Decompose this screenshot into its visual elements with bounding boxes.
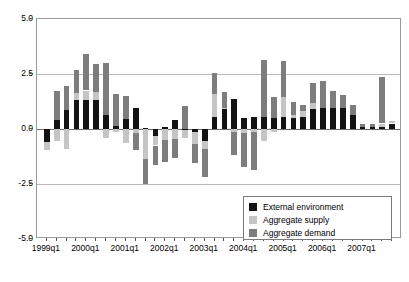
legend-label-aggregate-demand: Aggregate demand <box>263 228 335 238</box>
bar-segment-external-environment <box>64 110 70 129</box>
bar-segment-external-environment <box>74 100 80 129</box>
x-tick-mark <box>125 238 126 241</box>
legend-item-aggregate-demand: Aggregate demand <box>249 226 387 239</box>
bar-segment-aggregate-supply <box>172 129 178 139</box>
x-tick-mark <box>105 238 106 241</box>
x-tick-mark <box>56 238 57 241</box>
bar-segment-aggregate-demand <box>172 139 178 158</box>
x-tick-mark <box>75 238 76 241</box>
bar-segment-aggregate-demand <box>300 105 306 112</box>
bar-segment-external-environment <box>123 119 129 129</box>
bar-segment-aggregate-demand <box>212 73 218 94</box>
legend-swatch-aggregate-demand <box>249 229 257 237</box>
x-tick-mark <box>164 238 165 241</box>
bar-segment-aggregate-supply <box>291 115 297 118</box>
bar-segment-aggregate-demand <box>281 61 287 97</box>
bar-segment-aggregate-demand <box>74 70 80 93</box>
x-tick-label: 2003q1 <box>190 243 218 253</box>
bar-segment-aggregate-demand <box>64 86 70 110</box>
x-tick-mark <box>145 238 146 241</box>
x-tick-label: 2002q1 <box>150 243 178 253</box>
bar-segment-aggregate-demand <box>350 105 356 115</box>
x-tick-mark <box>46 238 47 241</box>
x-tick-mark <box>194 238 195 241</box>
bar-segment-aggregate-demand <box>330 91 336 109</box>
bar-segment-aggregate-demand <box>143 159 149 184</box>
bar-segment-aggregate-supply <box>310 103 316 110</box>
bar-segment-aggregate-supply <box>44 142 50 150</box>
bar-segment-aggregate-supply <box>153 136 159 146</box>
bar-segment-aggregate-demand <box>83 54 89 90</box>
bar-segment-aggregate-demand <box>231 132 237 155</box>
x-tick-label: 1999q1 <box>32 243 60 253</box>
bar-segment-external-environment <box>300 117 306 129</box>
bar-segment-external-environment <box>231 99 237 129</box>
x-tick-mark <box>154 238 155 241</box>
bar-segment-aggregate-demand <box>310 83 316 103</box>
x-tick-label: 2006q1 <box>308 243 336 253</box>
bar-segment-external-environment <box>93 100 99 129</box>
bar-segment-aggregate-supply <box>379 124 385 127</box>
bar-segment-external-environment <box>360 127 366 129</box>
bar-segment-external-environment <box>310 109 316 129</box>
bar-segment-aggregate-supply <box>261 129 267 141</box>
bar-segment-aggregate-supply <box>182 130 188 138</box>
bar-segment-aggregate-demand <box>251 132 257 169</box>
bar-segment-aggregate-demand <box>291 102 297 115</box>
bar-segment-aggregate-demand <box>153 146 159 166</box>
bar-segment-aggregate-demand <box>202 149 208 178</box>
y-tick-mark <box>29 238 33 239</box>
bar-segment-external-environment <box>281 117 287 129</box>
bar-segment-aggregate-supply <box>83 91 89 101</box>
legend-item-aggregate-supply: Aggregate supply <box>249 213 387 226</box>
bar-segment-aggregate-supply <box>54 129 60 141</box>
bar-segment-aggregate-supply <box>281 97 287 117</box>
x-tick-label: 2004q1 <box>229 243 257 253</box>
x-tick-mark <box>223 238 224 241</box>
bar-segment-aggregate-demand <box>271 97 277 118</box>
bar-segment-external-environment <box>133 108 139 129</box>
bar-segment-external-environment <box>330 108 336 129</box>
x-tick-mark <box>115 238 116 241</box>
x-tick-mark <box>214 238 215 241</box>
bar-segment-aggregate-supply <box>300 111 306 117</box>
bar-segment-external-environment <box>241 118 247 129</box>
bar-segment-aggregate-demand <box>123 96 129 119</box>
bar-segment-aggregate-supply <box>143 129 149 159</box>
bar-segment-external-environment <box>340 108 346 129</box>
bar-segment-aggregate-supply <box>93 92 99 101</box>
y-tick-mark <box>29 128 33 129</box>
legend-swatch-aggregate-supply <box>249 216 257 224</box>
bar-segment-aggregate-demand <box>340 95 346 108</box>
x-tick-mark <box>233 238 234 241</box>
bar-segment-aggregate-demand <box>113 94 119 126</box>
x-tick-mark <box>174 238 175 241</box>
bar-segment-aggregate-supply <box>123 129 129 143</box>
bar-segment-external-environment <box>261 117 267 129</box>
bar-segment-external-environment <box>83 100 89 129</box>
bar-segment-aggregate-supply <box>192 132 198 144</box>
bar-segment-external-environment <box>389 124 395 130</box>
x-tick-mark <box>66 238 67 241</box>
bar-segment-external-environment <box>54 120 60 129</box>
bar-segment-external-environment <box>320 108 326 129</box>
legend-item-external-environment: External environment <box>249 200 387 213</box>
bar-segment-external-environment <box>271 118 277 129</box>
x-tick-label: 2000q1 <box>71 243 99 253</box>
bar-segment-external-environment <box>350 115 356 129</box>
x-tick-mark <box>204 238 205 241</box>
legend-swatch-external-environment <box>249 203 257 211</box>
x-tick-mark <box>184 238 185 241</box>
bar-segment-external-environment <box>251 117 257 129</box>
bar-segment-aggregate-demand <box>379 77 385 123</box>
legend-label-aggregate-supply: Aggregate supply <box>263 215 329 225</box>
x-tick-mark <box>85 238 86 241</box>
y-tick-mark <box>29 73 33 74</box>
bar-segment-aggregate-supply <box>103 129 109 138</box>
bar-segment-external-environment <box>202 129 208 141</box>
bar-segment-external-environment <box>212 117 218 129</box>
legend-label-external-environment: External environment <box>263 202 343 212</box>
bar-segment-external-environment <box>44 129 50 142</box>
bar-segment-aggregate-demand <box>370 124 376 127</box>
x-tick-label: 2001q1 <box>111 243 139 253</box>
